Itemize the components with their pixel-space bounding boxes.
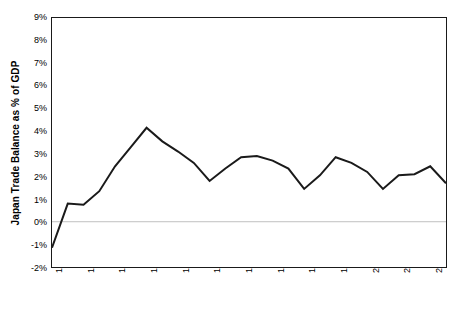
plot-svg xyxy=(52,18,446,267)
plot-area xyxy=(51,17,447,268)
chart-container: Japan Trade Balance as % of GDP 9%8%7%6%… xyxy=(0,0,457,318)
data-series-line xyxy=(52,128,446,248)
